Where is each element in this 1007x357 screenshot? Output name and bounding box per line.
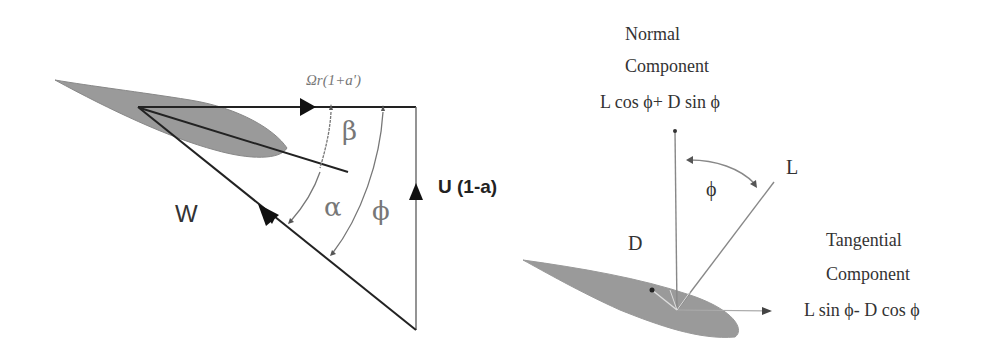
- lift-label: L: [786, 156, 798, 179]
- axial-velocity-label: U (1-a): [438, 176, 497, 198]
- phi-label: ϕ: [372, 196, 390, 226]
- tangential-arrowhead: [762, 307, 772, 315]
- rotational-velocity-arrowhead: [300, 98, 316, 116]
- normal-component-title-1: Normal: [625, 24, 680, 45]
- phi-arc-right: [690, 160, 755, 184]
- normal-force-line: [675, 131, 677, 310]
- drag-label: D: [628, 232, 642, 255]
- tangential-component-title-1: Tangential: [826, 230, 902, 251]
- normal-component-title-2: Component: [625, 56, 709, 77]
- diagram-canvas: Ωr(1+a') U (1-a) W β α ϕ Normal Componen…: [0, 0, 1007, 357]
- alpha-label: α: [324, 192, 342, 222]
- left-airfoil: [55, 80, 287, 157]
- beta-label: β: [342, 116, 357, 146]
- lift-force-line: [677, 182, 774, 310]
- beta-arc: [320, 112, 331, 168]
- relative-wind-arrowhead-body: [258, 204, 279, 226]
- normal-component-formula: L cos ϕ+ D sin ϕ: [600, 92, 720, 113]
- left-velocity-triangle: [55, 80, 423, 330]
- tangential-component-title-2: Component: [826, 264, 910, 285]
- relative-wind-label: W: [175, 200, 198, 228]
- rotational-velocity-label: Ωr(1+a'): [306, 72, 361, 89]
- alpha-arc: [290, 172, 320, 222]
- phi-arc: [332, 112, 383, 254]
- right-force-diagram: [523, 129, 774, 337]
- axial-velocity-arrowhead: [409, 183, 423, 200]
- phi-label-right: ϕ: [706, 178, 717, 201]
- tangential-component-formula: L sin ϕ- D cos ϕ: [804, 300, 920, 321]
